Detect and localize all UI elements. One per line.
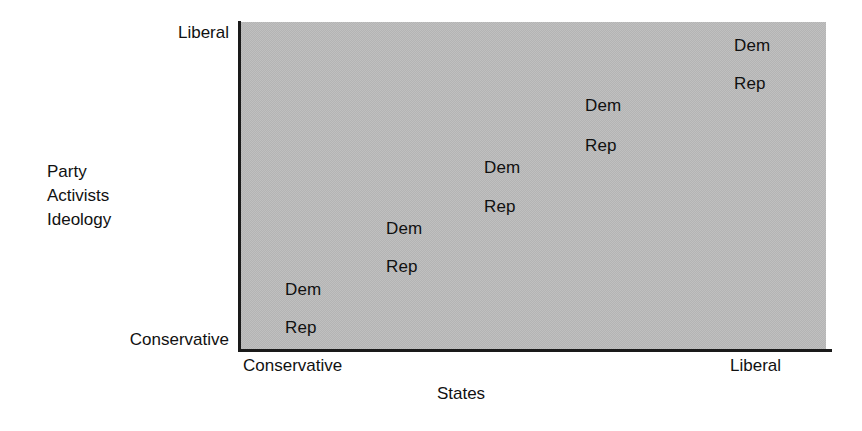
data-point-dem-5: Dem bbox=[734, 37, 770, 54]
data-point-dem-1: Dem bbox=[285, 281, 321, 298]
data-point-rep-5: Rep bbox=[734, 75, 766, 92]
y-axis-tick-conservative: Conservative bbox=[130, 331, 229, 349]
y-axis-title-line-3: Ideology bbox=[47, 208, 111, 232]
data-point-dem-3: Dem bbox=[484, 159, 520, 176]
y-axis-title-line-2: Activists bbox=[47, 184, 111, 208]
data-point-rep-2: Rep bbox=[386, 258, 418, 275]
y-axis-line bbox=[238, 21, 241, 352]
plot-area bbox=[241, 22, 826, 350]
y-axis-title-line-1: Party bbox=[47, 160, 111, 184]
data-point-rep-3: Rep bbox=[484, 198, 516, 215]
data-point-dem-2: Dem bbox=[386, 220, 422, 237]
y-axis-title: Party Activists Ideology bbox=[47, 160, 111, 232]
y-axis-tick-liberal: Liberal bbox=[178, 24, 229, 42]
x-axis-tick-conservative: Conservative bbox=[243, 357, 342, 375]
data-point-rep-1: Rep bbox=[285, 319, 317, 336]
x-axis-title-text: States bbox=[437, 384, 485, 403]
data-point-dem-4: Dem bbox=[585, 97, 621, 114]
data-point-rep-4: Rep bbox=[585, 137, 617, 154]
x-axis-tick-liberal: Liberal bbox=[730, 357, 781, 375]
x-axis-title: States bbox=[0, 385, 862, 403]
x-axis-line bbox=[238, 349, 832, 352]
chart-figure: Liberal Conservative Party Activists Ide… bbox=[0, 0, 862, 431]
